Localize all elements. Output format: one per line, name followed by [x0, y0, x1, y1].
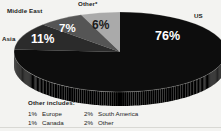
- footnote-title: Other includes:: [28, 98, 138, 108]
- chart-footnote: Other includes: 1% Europe 2% South Ameri…: [28, 98, 138, 128]
- footnote-row: 1% Europe 2% South America: [28, 109, 138, 119]
- footnote-entry-europe: 1% Europe: [28, 109, 84, 119]
- footnote-name: Europe: [42, 109, 62, 119]
- slice-value-asia: 11%: [31, 33, 54, 45]
- slice-label-us: US: [194, 13, 203, 19]
- pie-chart-figure: Middle East Other* Asia US 6% 7% 11% 76%…: [0, 0, 221, 131]
- footnote-pct: 1%: [28, 109, 42, 119]
- footnote-pct: 2%: [84, 109, 98, 119]
- slice-label-middle-east: Middle East: [7, 8, 42, 14]
- footnote-entry-south-america: 2% South America: [84, 109, 138, 119]
- slice-label-asia: Asia: [2, 36, 15, 42]
- slice-label-other: Other*: [78, 1, 98, 7]
- slice-value-us: 76%: [155, 30, 180, 43]
- slice-value-other: 6%: [92, 19, 109, 31]
- footnote-name: South America: [98, 109, 138, 119]
- bottom-divider: [0, 127, 221, 128]
- slice-value-middle-east: 7%: [59, 23, 76, 35]
